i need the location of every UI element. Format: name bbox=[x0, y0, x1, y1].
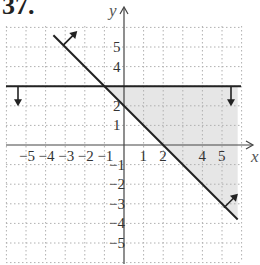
y-tick-label: −5 bbox=[109, 235, 125, 251]
x-tick-label: 5 bbox=[218, 148, 226, 164]
x-tick-label: −5 bbox=[19, 148, 35, 164]
y-tick-label: −3 bbox=[109, 196, 125, 212]
x-tick-label: −4 bbox=[39, 148, 55, 164]
y-tick-label: 5 bbox=[113, 39, 121, 55]
y-tick-label: 4 bbox=[113, 59, 121, 75]
y-tick-label: −2 bbox=[109, 176, 125, 192]
x-tick-label: 2 bbox=[159, 148, 167, 164]
coordinate-plane: xy −5−4−3−2−112455421−1−2−3−4−5 bbox=[0, 0, 260, 265]
x-tick-label: −3 bbox=[58, 148, 74, 164]
y-tick-label: −4 bbox=[109, 215, 125, 231]
x-tick-label: 4 bbox=[198, 148, 206, 164]
y-tick-label: 1 bbox=[113, 117, 121, 133]
x-axis-label: x bbox=[250, 147, 259, 166]
y-tick-label: −1 bbox=[109, 157, 125, 173]
y-axis-label: y bbox=[107, 1, 117, 20]
arrowhead-icon bbox=[14, 99, 22, 106]
x-tick-label: 1 bbox=[140, 148, 148, 164]
x-tick-label: −2 bbox=[78, 148, 94, 164]
